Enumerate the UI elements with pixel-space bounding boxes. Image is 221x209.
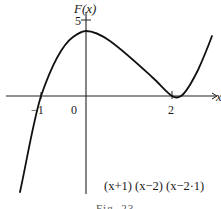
function-expression: (x+1) (x−2) (x−2·1): [104, 180, 204, 193]
x-tick-label-neg1: −1: [31, 104, 44, 116]
function-curve: [20, 31, 212, 192]
figure: F(x) 5 x −1 0 2 (x+1) (x−2) (x−2·1) Fig.…: [0, 0, 221, 209]
x-axis-label: x: [216, 90, 221, 103]
x-tick-label-2: 2: [168, 104, 174, 116]
x-tick-label-0: 0: [71, 104, 77, 116]
y-tick-label-5: 5: [75, 15, 81, 27]
figure-caption: Fig. 23: [96, 202, 134, 209]
